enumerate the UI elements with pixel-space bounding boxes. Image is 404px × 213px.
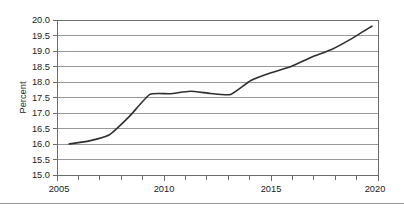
x-tick-label: 2015 (261, 184, 282, 194)
y-axis-tick-labels: 20.0 19.5 19.0 18.5 18.0 17.5 17.0 16.5 … (32, 15, 50, 180)
y-tick-label: 17.5 (32, 93, 50, 103)
y-tick-label: 15.0 (32, 170, 50, 180)
y-tick-label: 18.5 (32, 62, 50, 72)
y-tick-label: 19.5 (32, 31, 50, 41)
x-tick-label: 2005 (49, 184, 70, 194)
y-tick-label: 16.0 (32, 139, 50, 149)
y-axis-ticks (53, 20, 57, 175)
y-tick-label: 20.0 (32, 15, 50, 25)
x-tick-label: 2010 (154, 184, 175, 194)
x-axis-major-ticks (57, 175, 378, 181)
x-axis-tick-labels: 2005 2010 2015 2020 (49, 184, 386, 194)
y-tick-label: 17.0 (32, 108, 50, 118)
x-axis-minor-ticks (78, 175, 356, 180)
chart-figure: 20.0 19.5 19.0 18.5 18.0 17.5 17.0 16.5 … (0, 0, 404, 213)
y-tick-label: 15.5 (32, 155, 50, 165)
y-tick-label: 19.0 (32, 46, 50, 56)
y-tick-label: 16.5 (32, 124, 50, 134)
x-tick-label: 2020 (365, 184, 386, 194)
y-tick-label: 18.0 (32, 77, 50, 87)
line-chart: 20.0 19.5 19.0 18.5 18.0 17.5 17.0 16.5 … (0, 0, 404, 213)
y-axis-title: Percent (18, 81, 28, 113)
